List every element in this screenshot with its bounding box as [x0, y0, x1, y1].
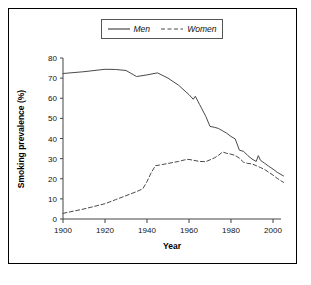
- x-tick-label: 1940: [138, 226, 156, 235]
- y-tick-label: 20: [48, 175, 57, 184]
- y-tick-label: 40: [48, 135, 57, 144]
- y-tick-label: 80: [48, 54, 57, 63]
- chart-plot-area: 01020304050607080 1900192019401960198020…: [0, 0, 311, 285]
- x-axis-title: Year: [163, 241, 182, 251]
- x-tick-label: 1920: [96, 226, 114, 235]
- x-tick-label: 1900: [54, 226, 72, 235]
- y-axis-title: Smoking prevalence (%): [16, 90, 26, 188]
- x-tick-label: 2000: [264, 226, 282, 235]
- y-tick-label: 70: [48, 74, 57, 83]
- y-tick-label: 50: [48, 114, 57, 123]
- x-tick-label: 1980: [222, 226, 240, 235]
- x-axis-ticks: 190019201940196019802000: [54, 219, 282, 235]
- y-tick-label: 10: [48, 195, 57, 204]
- x-tick-label: 1960: [180, 226, 198, 235]
- series-line-women: [63, 152, 284, 213]
- y-tick-label: 30: [48, 155, 57, 164]
- y-tick-label: 0: [53, 215, 58, 224]
- y-tick-label: 60: [48, 94, 57, 103]
- series-line-men: [63, 69, 284, 176]
- y-axis-ticks: 01020304050607080: [48, 54, 63, 224]
